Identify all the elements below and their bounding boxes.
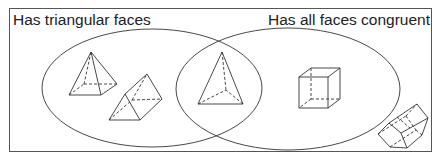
ellipse-congruent-faces — [176, 28, 400, 150]
pentagonal-prism-icon — [378, 104, 428, 148]
tetrahedron-icon — [198, 52, 243, 104]
triangular-prism-icon — [109, 74, 162, 120]
cube-icon — [299, 68, 340, 108]
ellipse-triangular-faces — [42, 29, 262, 147]
square-pyramid-icon — [69, 52, 117, 95]
venn-diagram — [0, 0, 441, 159]
